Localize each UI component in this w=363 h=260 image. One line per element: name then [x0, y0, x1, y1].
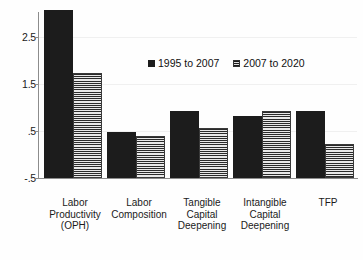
- x-label-line: TFP: [284, 197, 363, 209]
- bar-2007-2020-tfp: [325, 144, 354, 178]
- x-label-tfp: TFP: [284, 197, 363, 209]
- bar-group-tangible-capital-deepening: [170, 10, 232, 178]
- y-tick-label-0-5: .5: [4, 126, 36, 136]
- x-label-line: Capital: [221, 209, 309, 221]
- bar-group-labor-composition: [107, 10, 169, 178]
- bar-chart: 2.5 1.5 .5 -.5 1995 to 2007 2007 to 2020: [0, 0, 363, 260]
- y-tick-label-1-5: 1.5: [4, 79, 36, 89]
- y-tick-label-2-5: 2.5: [4, 32, 36, 42]
- plot-area: [39, 10, 357, 178]
- bar-1995-2007-tfp: [296, 111, 325, 178]
- x-label-line: Deepening: [221, 220, 309, 232]
- bar-group-intangible-capital-deepening: [233, 10, 295, 178]
- bar-2007-2020-tangible-capital-deepening: [199, 128, 228, 178]
- y-tick-label-neg-0-5: -.5: [4, 173, 36, 183]
- x-label-line: (OPH): [31, 220, 119, 232]
- bar-2007-2020-labor-productivity: [73, 73, 102, 178]
- bar-1995-2007-intangible-capital-deepening: [233, 116, 262, 178]
- bar-group-tfp: [296, 10, 358, 178]
- bar-1995-2007-tangible-capital-deepening: [170, 111, 199, 178]
- bar-group-labor-productivity: [44, 10, 106, 178]
- bar-2007-2020-intangible-capital-deepening: [262, 111, 291, 178]
- x-axis-line: [38, 178, 358, 179]
- bar-1995-2007-labor-productivity: [44, 10, 73, 178]
- x-axis-category-labels: Labor Productivity (OPH) Labor Compositi…: [39, 197, 357, 257]
- y-tick-mark-neg-0-5: [35, 178, 39, 179]
- bar-2007-2020-labor-composition: [136, 136, 165, 178]
- bar-1995-2007-labor-composition: [107, 132, 136, 178]
